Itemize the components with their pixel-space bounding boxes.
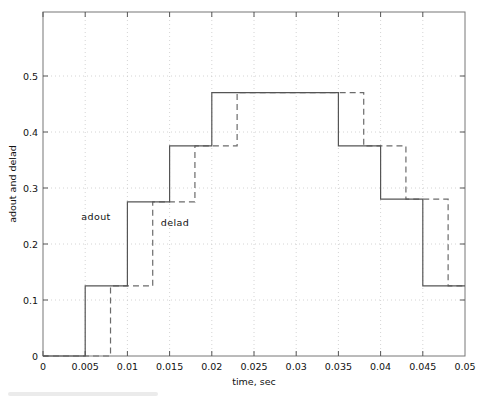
y-tick-label: 0.3 <box>23 183 38 194</box>
x-tick-label: 0 <box>40 361 46 372</box>
x-axis-title: time, sec <box>232 376 276 387</box>
x-tick-label: 0.05 <box>454 361 475 372</box>
y-axis-title: adout and delad <box>7 145 18 223</box>
x-tick-label: 0.02 <box>201 361 222 372</box>
x-tick-label: 0.015 <box>156 361 183 372</box>
series-annotation-delad: delad <box>161 217 189 228</box>
y-tick-label: 0.4 <box>23 127 38 138</box>
series-annotation-adout: adout <box>81 211 110 222</box>
x-tick-label: 0.005 <box>72 361 99 372</box>
x-tick-label: 0.025 <box>240 361 267 372</box>
x-tick-label: 0.03 <box>286 361 307 372</box>
x-tick-labels: 0 0.005 0.01 0.015 0.02 0.025 0.03 0.035… <box>40 361 476 372</box>
x-tick-label: 0.01 <box>117 361 138 372</box>
x-tick-label: 0.045 <box>409 361 436 372</box>
y-tick-label: 0.5 <box>23 71 38 82</box>
x-tick-label: 0.04 <box>370 361 391 372</box>
y-tick-labels: 0 0.1 0.2 0.3 0.4 0.5 <box>23 71 38 362</box>
y-tick-label: 0.2 <box>23 239 38 250</box>
line-chart: 0 0.1 0.2 0.3 0.4 0.5 0 0.005 0.01 0.015… <box>0 0 487 402</box>
y-tick-label: 0 <box>32 351 38 362</box>
figure-container: 0 0.1 0.2 0.3 0.4 0.5 0 0.005 0.01 0.015… <box>0 0 487 402</box>
scan-artifact <box>8 392 158 396</box>
y-tick-label: 0.1 <box>23 295 38 306</box>
x-tick-label: 0.035 <box>325 361 352 372</box>
